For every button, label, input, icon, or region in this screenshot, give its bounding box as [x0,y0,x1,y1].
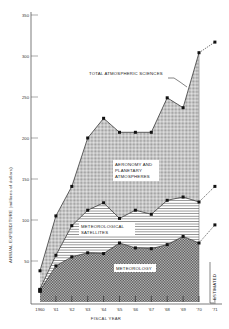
x-axis-title: FISCAL YEAR [91,316,121,321]
x-tick-label: 1960 [35,307,45,312]
aeronomy-label-3: ATMOSPHERES [115,174,150,179]
data-point-marker [118,217,121,220]
data-point-marker [166,199,169,202]
x-tick-label: '65 [117,307,123,312]
x-tick-label: '68 [164,307,170,312]
data-point-marker [54,214,57,217]
aeronomy-label-1: AERONOMY AND [115,162,152,167]
data-point-marker [102,201,105,204]
data-point-marker [54,264,57,267]
data-point-marker [39,269,42,272]
x-tick-label: '62 [69,307,75,312]
total-leader-line [168,78,187,87]
data-point-marker [213,223,216,226]
y-tick-label: 150 [22,177,30,182]
satellites-label-2: SATELLITES [81,230,108,235]
data-point-marker [198,242,201,245]
data-point-marker [118,242,121,245]
data-point-marker [182,196,185,199]
label-estimated: ESTIMATED [210,262,217,303]
x-tick-label: '71 [212,307,218,312]
data-point-marker [182,235,185,238]
data-point-marker [102,117,105,120]
data-point-marker [198,201,201,204]
x-tick-label: '70 [196,307,202,312]
data-point-marker [166,96,169,99]
data-point-marker [213,185,216,188]
estimated-label: ESTIMATED [212,274,217,300]
estimate-line-2 [199,42,215,53]
y-tick-label: 350 [22,13,30,18]
data-point-marker [70,224,73,227]
x-tick-label: '64 [101,307,107,312]
data-point-marker [134,131,137,134]
x-tick-label: '66 [133,307,139,312]
data-point-marker [150,213,153,216]
y-tick-label: 250 [22,95,30,100]
data-point-marker [54,254,57,257]
x-tick-label: '63 [85,307,91,312]
x-tick-label: '67 [149,307,155,312]
estimate-line-0 [199,225,215,243]
data-point-marker [213,41,216,44]
label-meteorology: METEOROLOGY [114,264,156,272]
data-point-marker [86,137,89,140]
label-satellites: METEOROLOGICAL SATELLITES [79,222,135,236]
data-point-marker [70,185,73,188]
y-tick-label: 100 [22,218,30,223]
aeronomy-label-2: PLANETARY [115,168,142,173]
data-point-marker [70,255,73,258]
meteorology-label: METEOROLOGY [116,266,152,271]
y-tick-label: 200 [22,136,30,141]
data-point-marker [134,209,137,212]
data-point-marker [166,243,169,246]
label-total: TOTAL ATMOSPHERIC SCIENCES [88,69,187,87]
expenditure-chart: 35030025020015010050 1960'61'62'63'64'65… [0,0,229,329]
estimate-line-1 [199,186,215,202]
x-tick-label: '61 [53,307,59,312]
data-point-marker [134,246,137,249]
data-point-marker [150,131,153,134]
data-point-marker [150,247,153,250]
data-point-marker [86,251,89,254]
data-point-marker [198,51,201,54]
total-label: TOTAL ATMOSPHERIC SCIENCES [89,71,163,76]
data-point-marker [182,106,185,109]
label-aeronomy: AERONOMY AND PLANETARY ATMOSPHERES [113,160,159,181]
y-tick-label: 50 [24,259,29,264]
data-point-marker [38,288,42,293]
y-tick-label: 300 [22,54,30,59]
data-point-marker [102,252,105,255]
y-axis-title: ANNUAL EXPENDITURE (millions of dollars) [8,167,13,263]
data-point-marker [118,131,121,134]
satellites-label-1: METEOROLOGICAL [81,224,125,229]
x-tick-label: '69 [180,307,186,312]
data-point-marker [86,209,89,212]
y-ticks: 35030025020015010050 [22,13,38,264]
